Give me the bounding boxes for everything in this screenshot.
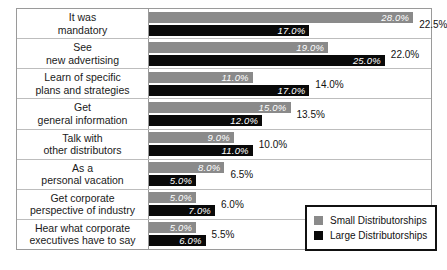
category-label: Talk withother distributors [17, 130, 149, 159]
bar-small: 28.0% [149, 12, 413, 23]
chart-row: Seenew advertising19.0%25.0%22.0% [17, 39, 431, 69]
bar-small: 11.0% [149, 72, 253, 83]
legend-label: Large Distributorships [330, 230, 427, 241]
category-label-line: mandatory [58, 24, 108, 37]
bar-value-label: 5.0% [170, 222, 196, 233]
category-label-line: other distributors [43, 144, 121, 157]
bar-value-label: 9.0% [207, 132, 233, 143]
category-label-line: general information [38, 114, 128, 127]
category-label-line: new advertising [46, 54, 119, 67]
combined-value-label: 6.5% [230, 169, 253, 180]
category-label-line: Hear what corporate [35, 222, 130, 235]
category-label: As apersonal vacation [17, 160, 149, 189]
bar-large: 25.0% [149, 55, 385, 66]
bar-large: 12.0% [149, 115, 262, 126]
category-label: It wasmandatory [17, 9, 149, 38]
category-label-line: Talk with [62, 132, 102, 145]
bar-value-label: 11.0% [222, 72, 253, 83]
bar-small: 8.0% [149, 162, 224, 173]
bars-cell: 11.0%17.0%14.0% [149, 69, 431, 98]
chart-row: Learn of specificplans and strategies11.… [17, 69, 431, 99]
combined-value-label: 22.5% [419, 18, 447, 29]
category-label-line: See [73, 41, 92, 54]
legend-label: Small Distributorships [330, 215, 427, 226]
bar-line: 8.0% [149, 162, 431, 173]
bar-value-label: 7.0% [189, 205, 215, 216]
bar-value-label: 28.0% [381, 12, 413, 23]
category-label: Seenew advertising [17, 39, 149, 68]
combined-value-label: 10.0% [259, 139, 287, 150]
category-label-line: perspective of industry [30, 204, 135, 217]
bar-line: 11.0% [149, 145, 431, 156]
chart-legend: Small DistributorshipsLarge Distributors… [305, 205, 437, 251]
bar-large: 17.0% [149, 25, 309, 36]
bar-value-label: 8.0% [198, 162, 224, 173]
bar-value-label: 17.0% [277, 85, 309, 96]
bar-large: 6.0% [149, 235, 206, 246]
legend-swatch-icon [313, 215, 324, 226]
bar-large: 5.0% [149, 175, 196, 186]
bars-cell: 8.0%5.0%6.5% [149, 160, 431, 189]
bar-small: 9.0% [149, 132, 234, 143]
combined-value-label: 22.0% [391, 48, 419, 59]
bar-line: 17.0% [149, 25, 431, 36]
category-label-line: Learn of specific [44, 71, 120, 84]
bar-line: 12.0% [149, 115, 431, 126]
bar-line: 9.0% [149, 132, 431, 143]
bar-small: 5.0% [149, 192, 196, 203]
bars-cell: 28.0%17.0%22.5% [149, 9, 431, 38]
bar-line: 5.0% [149, 175, 431, 186]
chart-row: Talk withother distributors9.0%11.0%10.0… [17, 130, 431, 160]
bar-large: 11.0% [149, 145, 253, 156]
bar-line: 5.0% [149, 192, 431, 203]
bar-small: 15.0% [149, 102, 291, 113]
bar-line: 15.0% [149, 102, 431, 113]
bar-large: 7.0% [149, 205, 215, 216]
legend-swatch-icon [313, 230, 324, 241]
combined-value-label: 14.0% [315, 78, 343, 89]
category-label: Learn of specificplans and strategies [17, 69, 149, 98]
bar-line: 25.0% [149, 55, 431, 66]
legend-item: Small Distributorships [313, 215, 429, 226]
category-label-line: Get corporate [50, 192, 114, 205]
bar-value-label: 11.0% [222, 145, 253, 156]
bars-cell: 15.0%12.0%13.5% [149, 99, 431, 128]
category-label-line: As a [72, 162, 93, 175]
category-label: Hear what corporateexecutives have to sa… [17, 220, 149, 249]
category-label-line: Get [74, 101, 91, 114]
bar-value-label: 6.0% [179, 235, 205, 246]
bar-value-label: 25.0% [353, 55, 385, 66]
bar-value-label: 5.0% [170, 175, 196, 186]
category-label-line: plans and strategies [36, 84, 130, 97]
chart-row: Getgeneral information15.0%12.0%13.5% [17, 99, 431, 129]
bar-value-label: 19.0% [296, 42, 328, 53]
category-label-line: It was [69, 11, 96, 24]
bar-value-label: 12.0% [230, 115, 262, 126]
chart-row: It wasmandatory28.0%17.0%22.5% [17, 9, 431, 39]
chart-row: As apersonal vacation8.0%5.0%6.5% [17, 160, 431, 190]
combined-value-label: 6.0% [221, 199, 244, 210]
bar-small: 5.0% [149, 222, 196, 233]
bar-small: 19.0% [149, 42, 328, 53]
bar-value-label: 5.0% [170, 192, 196, 203]
category-label: Get corporateperspective of industry [17, 190, 149, 219]
bar-line: 28.0% [149, 12, 431, 23]
bar-large: 17.0% [149, 85, 309, 96]
category-label-line: executives have to say [29, 234, 135, 247]
bars-cell: 9.0%11.0%10.0% [149, 130, 431, 159]
legend-item: Large Distributorships [313, 230, 429, 241]
bar-line: 11.0% [149, 72, 431, 83]
category-label: Getgeneral information [17, 99, 149, 128]
bar-value-label: 15.0% [259, 102, 291, 113]
bars-cell: 19.0%25.0%22.0% [149, 39, 431, 68]
combined-value-label: 13.5% [297, 108, 325, 119]
category-label-line: personal vacation [41, 174, 123, 187]
bar-line: 17.0% [149, 85, 431, 96]
bar-value-label: 17.0% [277, 25, 309, 36]
combined-value-label: 5.5% [212, 229, 235, 240]
bar-line: 19.0% [149, 42, 431, 53]
